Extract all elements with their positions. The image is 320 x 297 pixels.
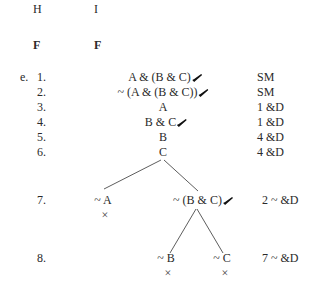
line-number: 7. bbox=[26, 193, 46, 207]
line-number: 5. bbox=[26, 130, 46, 144]
line-number: 8. bbox=[26, 251, 46, 265]
check-mark-icon bbox=[192, 74, 202, 82]
line-number: 6. bbox=[26, 145, 46, 159]
justification: SM bbox=[257, 85, 274, 99]
branch-line-left bbox=[104, 160, 161, 189]
formula: ~ (A & (B & C)) bbox=[117, 85, 208, 99]
justification: 4 &D bbox=[257, 145, 284, 159]
branch-line-right-2 bbox=[197, 209, 223, 253]
check-mark-icon bbox=[199, 89, 209, 97]
justification: 7 ~ &D bbox=[262, 251, 299, 265]
formula: B & C bbox=[145, 115, 187, 129]
formula: A bbox=[159, 100, 168, 114]
closed-branch-mark: × bbox=[222, 266, 229, 280]
check-mark-icon bbox=[177, 119, 187, 127]
branch-right-formula: ~ C bbox=[213, 251, 231, 265]
justification: 1 &D bbox=[257, 100, 284, 114]
check-mark-icon bbox=[223, 197, 233, 205]
justification: 2 ~ &D bbox=[262, 193, 299, 207]
justification: 4 &D bbox=[257, 130, 284, 144]
justification: SM bbox=[257, 70, 274, 84]
formula: C bbox=[159, 145, 167, 159]
branch-line-right bbox=[164, 160, 198, 191]
closed-branch-mark: × bbox=[165, 266, 172, 280]
branch-left-formula: ~ B bbox=[157, 251, 175, 265]
formula: B bbox=[159, 130, 167, 144]
branch-right-formula: ~ (B & C) bbox=[173, 193, 233, 207]
line-number: 2. bbox=[26, 85, 46, 99]
branch-left-formula: ~ A bbox=[94, 193, 112, 207]
line-number: 4. bbox=[26, 115, 46, 129]
justification: 1 &D bbox=[257, 115, 284, 129]
formula: A & (B & C) bbox=[128, 70, 202, 84]
line-number: 3. bbox=[26, 100, 46, 114]
branch-line-left-2 bbox=[170, 209, 196, 253]
line-number: 1. bbox=[26, 70, 46, 84]
closed-branch-mark: × bbox=[102, 208, 109, 222]
